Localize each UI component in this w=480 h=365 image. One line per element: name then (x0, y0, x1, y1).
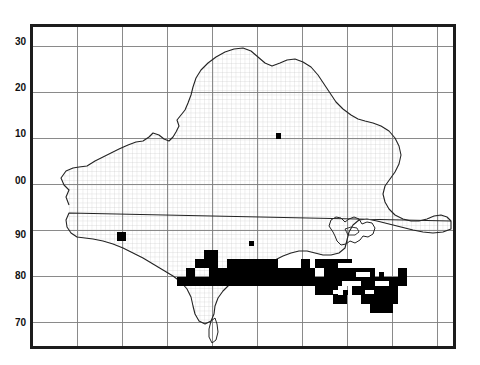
y-tick-label-70: 70 (4, 318, 26, 328)
plot-frame (30, 24, 456, 349)
distribution-map-figure: 30 20 10 00 90 80 70 40 50 60 70 80 90 0… (0, 0, 480, 365)
record-squares-layer (33, 27, 453, 346)
y-tick-label-80: 80 (4, 271, 26, 281)
y-tick-label-10: 10 (4, 129, 26, 139)
y-tick-label-00: 00 (4, 176, 26, 186)
y-tick-label-30: 30 (4, 37, 26, 47)
y-tick-label-20: 20 (4, 83, 26, 93)
y-tick-label-90: 90 (4, 230, 26, 240)
plot-area (33, 27, 453, 346)
